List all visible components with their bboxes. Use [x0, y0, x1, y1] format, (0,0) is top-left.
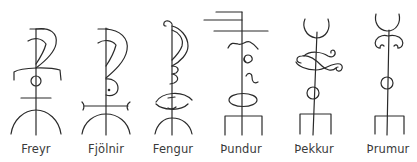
- sigil-drawings: [0, 0, 417, 162]
- label-thundur: Þundur: [220, 142, 261, 156]
- label-thrumur: Þrumur: [367, 142, 410, 156]
- label-fengur: Fengur: [153, 142, 193, 156]
- label-freyr: Freyr: [21, 142, 50, 156]
- fengur-sigil-icon: [155, 21, 192, 135]
- thundur-sigil-icon: [204, 12, 268, 135]
- thekkur-sigil-icon: [296, 19, 342, 135]
- label-thekkur: Þekkur: [294, 142, 334, 156]
- thrumur-sigil-icon: [375, 14, 404, 135]
- freyr-sigil-icon: [11, 29, 61, 135]
- sigil-figure: Freyr Fjölnir Fengur Þundur Þekkur Þrumu…: [0, 0, 417, 162]
- fjolnir-sigil-icon: [82, 28, 130, 135]
- label-fjolnir: Fjölnir: [88, 142, 124, 156]
